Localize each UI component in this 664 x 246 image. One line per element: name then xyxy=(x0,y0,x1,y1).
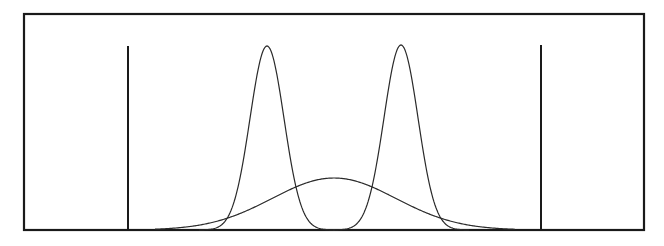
gaussian-peaks-diagram xyxy=(0,0,664,246)
narrow-peak-left-curve xyxy=(199,46,335,230)
diagram-canvas xyxy=(0,0,664,246)
plot-frame xyxy=(24,14,644,230)
broad-peak-curve xyxy=(155,178,515,229)
narrow-peak-right-curve xyxy=(333,45,469,230)
